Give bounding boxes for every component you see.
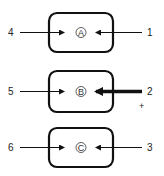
node-a: A 4 1 <box>8 13 153 52</box>
node-c-label: C <box>78 143 85 153</box>
input-label-4: 4 <box>8 27 14 38</box>
node-a-label: A <box>78 28 84 38</box>
input-label-6: 6 <box>8 142 14 153</box>
input-label-2: 2 <box>147 86 153 97</box>
input-label-1: 1 <box>147 27 153 38</box>
node-b: B 5 2 + <box>8 71 153 112</box>
input-label-3: 3 <box>147 142 153 153</box>
plus-sign: + <box>139 101 144 111</box>
node-b-label: B <box>78 87 84 97</box>
node-c: C 6 3 <box>8 128 153 167</box>
diagram: A 4 1 B 5 2 + C 6 3 <box>0 0 164 176</box>
input-label-5: 5 <box>8 86 14 97</box>
